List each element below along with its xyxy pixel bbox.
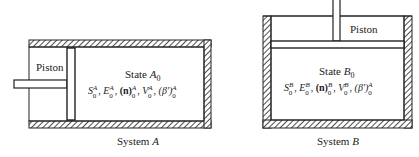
system-b-property-symbol: (n): [316, 82, 328, 94]
system-b-property-subscript: 0: [305, 89, 309, 97]
system-b-properties: SB0, EB0, (n)B0, VB0, (β')A0: [284, 81, 373, 97]
system-b-property-superscript: B: [344, 81, 349, 89]
system-b-property-superscript: A: [367, 81, 373, 89]
system-a-top-wall: [29, 40, 211, 47]
system-a-property-superscript: A: [171, 84, 177, 92]
system-a-property-symbol: (n): [120, 85, 132, 97]
system-b-property-superscript: B: [305, 81, 310, 89]
system-b-property-subscript: 0: [344, 89, 348, 97]
system-b-caption: System B: [317, 135, 359, 147]
system-a-properties: SA0, EA0, (n)A0, VA0, (β')A0: [88, 84, 177, 100]
two-systems-diagram: Piston State A0 SA0, EA0, (n)A0, VA0, (β…: [0, 0, 419, 157]
system-b-property-symbol: (β'): [355, 82, 369, 94]
system-b-property-subscript: 0: [289, 89, 293, 97]
system-b-property-superscript: B: [289, 81, 294, 89]
system-a-piston-rod: [14, 80, 67, 88]
system-b-piston-plate: [271, 41, 404, 48]
system-a-property-subscript: 0: [132, 92, 136, 100]
system-b-property-subscript: 0: [328, 89, 332, 97]
system-a-property-subscript: 0: [172, 92, 176, 100]
system-b-left-wall: [263, 16, 271, 128]
system-b-bottom-wall: [263, 120, 412, 128]
system-b-state-label: State B0: [319, 65, 354, 80]
system-a-property-superscript: A: [108, 84, 114, 92]
system-a-property-symbol: (β'): [159, 85, 173, 97]
system-a-state-label: State A0: [125, 68, 160, 83]
system-a-property-subscript: 0: [109, 92, 113, 100]
system-a: Piston State A0 SA0, EA0, (n)A0, VA0, (β…: [14, 40, 211, 147]
system-a-bottom-wall: [29, 121, 211, 128]
system-b-piston-rod: [333, 0, 340, 41]
system-b: Piston State B0 SB0, EB0, (n)B0, VB0, (β…: [263, 0, 412, 147]
system-a-piston-plate: [67, 48, 75, 120]
system-b-right-wall: [404, 16, 412, 128]
system-a-property-subscript: 0: [93, 92, 97, 100]
system-a-property-superscript: A: [131, 84, 137, 92]
system-b-piston-label: Piston: [350, 23, 378, 35]
system-a-property-superscript: A: [92, 84, 98, 92]
system-b-property-superscript: B: [328, 81, 333, 89]
system-a-caption: System A: [117, 135, 159, 147]
system-a-property-subscript: 0: [148, 92, 152, 100]
system-a-property-superscript: A: [147, 84, 153, 92]
system-a-right-wall: [204, 40, 211, 128]
system-b-property-subscript: 0: [368, 89, 372, 97]
system-a-piston-label: Piston: [36, 61, 64, 73]
